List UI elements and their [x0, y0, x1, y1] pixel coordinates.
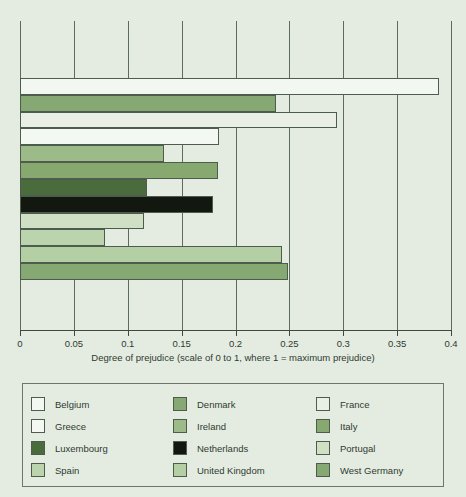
legend-item-greece[interactable]: Greece: [31, 419, 173, 433]
legend-item-west-germany[interactable]: West Germany: [316, 463, 437, 477]
legend-swatch-icon: [316, 419, 330, 433]
bar-luxembourg: [20, 179, 147, 196]
chart-legend: BelgiumDenmarkFranceGreeceIrelandItalyLu…: [22, 383, 444, 487]
legend-swatch-icon: [316, 441, 330, 455]
legend-item-spain[interactable]: Spain: [31, 463, 173, 477]
tick-mark-0.4: [451, 330, 452, 336]
x-tick-label: 0.3: [337, 338, 350, 349]
legend-item-denmark[interactable]: Denmark: [173, 397, 316, 411]
x-axis-title: Degree of prejudice (scale of 0 to 1, wh…: [0, 352, 466, 363]
legend-grid: BelgiumDenmarkFranceGreeceIrelandItalyLu…: [31, 393, 437, 481]
tick-mark-0.35: [397, 330, 398, 336]
bar-united-kingdom: [20, 246, 282, 263]
legend-label: Italy: [340, 421, 357, 432]
bar-chart: 00.050.10.150.20.250.30.350.4 Degree of …: [0, 0, 466, 375]
legend-swatch-icon: [31, 441, 45, 455]
bar-netherlands: [20, 196, 213, 213]
legend-item-belgium[interactable]: Belgium: [31, 397, 173, 411]
bar-france: [20, 112, 337, 129]
x-tick-label: 0.25: [280, 338, 299, 349]
legend-label: Spain: [55, 465, 79, 476]
legend-label: West Germany: [340, 465, 403, 476]
bar-greece: [20, 128, 219, 145]
gridline-0.4: [451, 21, 452, 330]
bar-denmark: [20, 95, 276, 112]
legend-swatch-icon: [31, 463, 45, 477]
legend-label: Portugal: [340, 443, 375, 454]
legend-label: Belgium: [55, 399, 89, 410]
legend-item-italy[interactable]: Italy: [316, 419, 437, 433]
legend-swatch-icon: [173, 419, 187, 433]
legend-swatch-icon: [316, 463, 330, 477]
tick-mark-0.25: [289, 330, 290, 336]
legend-label: United Kingdom: [197, 465, 265, 476]
legend-item-portugal[interactable]: Portugal: [316, 441, 437, 455]
legend-swatch-icon: [173, 463, 187, 477]
bar-ireland: [20, 145, 164, 162]
legend-label: France: [340, 399, 370, 410]
x-tick-label: 0: [17, 338, 22, 349]
legend-item-france[interactable]: France: [316, 397, 437, 411]
legend-swatch-icon: [173, 441, 187, 455]
chart-page: 00.050.10.150.20.250.30.350.4 Degree of …: [0, 0, 466, 497]
x-tick-label: 0.2: [229, 338, 242, 349]
x-tick-label: 0.1: [121, 338, 134, 349]
bar-west-germany: [20, 263, 288, 280]
legend-label: Greece: [55, 421, 86, 432]
bar-italy: [20, 162, 218, 179]
legend-item-ireland[interactable]: Ireland: [173, 419, 316, 433]
tick-mark-0.05: [74, 330, 75, 336]
tick-mark-0.1: [128, 330, 129, 336]
legend-item-luxembourg[interactable]: Luxembourg: [31, 441, 173, 455]
legend-label: Luxembourg: [55, 443, 108, 454]
legend-label: Ireland: [197, 421, 226, 432]
bar-spain: [20, 229, 105, 246]
bar-belgium: [20, 78, 439, 95]
legend-label: Denmark: [197, 399, 236, 410]
x-tick-label: 0.05: [65, 338, 84, 349]
x-tick-label: 0.15: [172, 338, 191, 349]
x-tick-label: 0.4: [444, 338, 457, 349]
tick-mark-0: [20, 330, 21, 336]
legend-swatch-icon: [316, 397, 330, 411]
tick-mark-0.2: [236, 330, 237, 336]
tick-mark-0.3: [343, 330, 344, 336]
legend-label: Netherlands: [197, 443, 248, 454]
bar-portugal: [20, 213, 144, 230]
tick-mark-0.15: [182, 330, 183, 336]
legend-swatch-icon: [31, 397, 45, 411]
legend-item-united-kingdom[interactable]: United Kingdom: [173, 463, 316, 477]
legend-item-netherlands[interactable]: Netherlands: [173, 441, 316, 455]
x-tick-label: 0.35: [388, 338, 407, 349]
bars-container: [20, 78, 451, 280]
legend-swatch-icon: [173, 397, 187, 411]
legend-swatch-icon: [31, 419, 45, 433]
